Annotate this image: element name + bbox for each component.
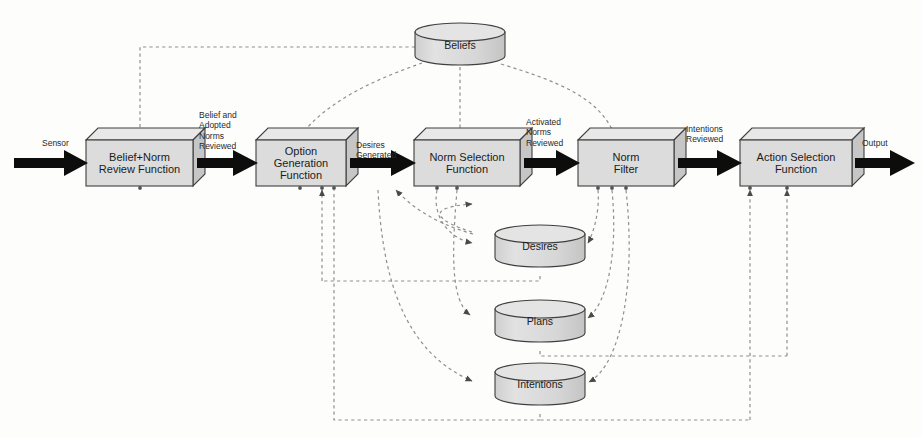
- pin: [749, 187, 752, 190]
- link-desires-bus-horizontal: [322, 276, 540, 281]
- pin: [625, 187, 628, 190]
- pin: [456, 187, 459, 190]
- pin: [299, 187, 302, 190]
- link-norm-filter-to-plans: [588, 190, 614, 318]
- pin: [139, 187, 142, 190]
- pin: [333, 187, 336, 190]
- flow-belief-review-to-option-gen: [197, 150, 258, 176]
- flow-norm-filter-to-action-selection: [678, 150, 742, 176]
- store-desires[interactable]: [495, 225, 585, 267]
- diagram-svg: [0, 0, 922, 437]
- link-beliefs-to-option-generation: [300, 63, 422, 136]
- pin: [436, 187, 439, 190]
- pin: [611, 187, 614, 190]
- process-norm-selection-function[interactable]: [414, 128, 532, 186]
- process-norm-filter[interactable]: [578, 128, 686, 186]
- process-belief-norm-review-function[interactable]: [86, 128, 205, 186]
- link-option-generation-to-desires-stem: [396, 190, 473, 234]
- link-beliefs-to-norm-filter: [501, 64, 615, 136]
- process-option-generation-function[interactable]: [256, 128, 358, 186]
- pin: [597, 187, 600, 190]
- store-intentions[interactable]: [495, 363, 585, 405]
- link-norm-filter-to-desires: [588, 190, 598, 243]
- flow-option-gen-to-norm-selection: [350, 150, 416, 176]
- store-plans[interactable]: [495, 300, 585, 342]
- link-option-generation-to-desires: [440, 204, 472, 232]
- link-norm-selection-to-plans: [454, 190, 470, 315]
- link-norm-filter-to-intentions: [589, 190, 629, 382]
- process-action-selection-function[interactable]: [740, 128, 864, 186]
- pin: [321, 187, 324, 190]
- link-option-generation-to-intentions: [378, 190, 472, 381]
- flow-sensor-to-belief-review: [14, 150, 88, 176]
- link-intentions-bus-horizontal: [540, 414, 750, 420]
- pin: [786, 187, 789, 190]
- store-beliefs[interactable]: [415, 23, 505, 65]
- link-beliefs-to-belief-review: [140, 47, 415, 137]
- diagram-canvas: Belief+Norm Review Function Option Gener…: [0, 0, 922, 437]
